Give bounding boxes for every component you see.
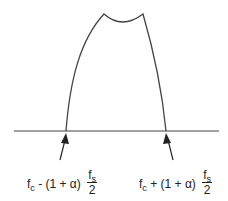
fc-subscript: c: [142, 183, 147, 193]
fs-symbol: f: [203, 168, 206, 182]
operator-text: - (1 + α): [38, 177, 81, 191]
fraction-denominator: 2: [202, 183, 212, 196]
left-band-edge-arrow: [60, 133, 69, 160]
left-band-edge-label: fc - (1 + α) fs 2: [27, 171, 97, 198]
right-band-edge-arrow: [163, 133, 173, 160]
operator-text: + (1 + α): [150, 177, 196, 191]
spectrum-curve: [66, 14, 166, 131]
fs-over-2-fraction: fs 2: [87, 169, 97, 196]
fraction-denominator: 2: [87, 183, 97, 196]
fs-subscript: s: [91, 174, 96, 184]
fs-subscript: s: [207, 174, 212, 184]
fc-subscript: c: [30, 183, 35, 193]
fs-over-2-fraction: fs 2: [202, 169, 212, 196]
right-band-edge-label: fc + (1 + α) fs 2: [139, 171, 212, 198]
